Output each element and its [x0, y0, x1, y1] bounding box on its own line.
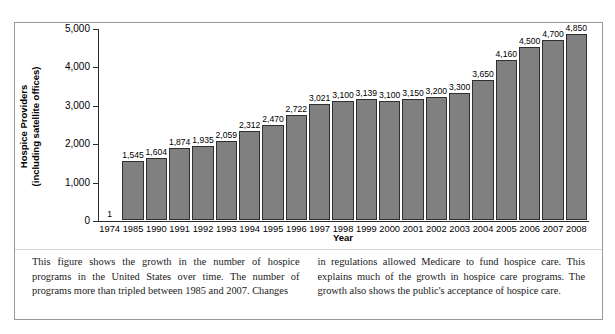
y-axis-title: Hospice Providers (including satellite o… — [18, 39, 41, 214]
bar[interactable] — [192, 146, 213, 220]
bar-group: 3,1502001 — [401, 28, 424, 220]
bar[interactable] — [402, 99, 423, 220]
bar-value-label: 1,935 — [192, 136, 214, 145]
bar-value-label: 2,470 — [262, 115, 284, 124]
bar-group: 3,1002000 — [378, 28, 401, 220]
bar-group: 3,2002002 — [425, 28, 448, 220]
bar-group: 2,4701995 — [261, 28, 284, 220]
figure-caption: This figure shows the growth in the numb… — [15, 255, 602, 299]
bar-group: 3,0211997 — [308, 28, 331, 220]
bar-value-label: 1 — [107, 210, 112, 219]
y-axis-title-line-1: Hospice Providers — [18, 39, 30, 214]
bar-group: 1,6041990 — [145, 28, 168, 220]
bar[interactable] — [332, 101, 353, 220]
bar[interactable] — [426, 97, 447, 220]
x-axis-title: Year — [98, 232, 588, 243]
bar-value-label: 1,874 — [169, 138, 191, 147]
y-axis-tick-label: 0 — [46, 216, 90, 226]
bar-value-label: 3,300 — [449, 83, 471, 92]
bar-group: 3,6502004 — [471, 28, 494, 220]
bar-value-label: 3,021 — [309, 94, 331, 103]
y-axis-tick-label: 2,000 — [46, 139, 90, 149]
bar-value-label: 3,100 — [379, 91, 401, 100]
bar[interactable] — [309, 104, 330, 220]
bar[interactable] — [356, 99, 377, 220]
bar-value-label: 4,700 — [542, 30, 564, 39]
y-axis-tick-label: 5,000 — [46, 24, 90, 34]
bar-group: 1,9351992 — [191, 28, 214, 220]
bar[interactable] — [216, 141, 237, 220]
bar[interactable] — [449, 93, 470, 220]
bar-value-label: 1,604 — [146, 148, 168, 157]
bar-value-label: 2,312 — [239, 121, 261, 130]
bar-chart: Hospice Providers (including satellite o… — [15, 23, 602, 249]
bar-value-label: 4,500 — [519, 37, 541, 46]
bar-value-label: 3,650 — [472, 70, 494, 79]
bar[interactable] — [146, 158, 167, 220]
bar-group: 1,8741991 — [168, 28, 191, 220]
bar[interactable] — [262, 125, 283, 220]
bar-group: 4,7002007 — [541, 28, 564, 220]
x-axis-line — [98, 221, 589, 222]
bar[interactable] — [239, 131, 260, 220]
bar[interactable] — [122, 161, 143, 220]
bar-value-label: 3,100 — [332, 91, 354, 100]
bar-group: 4,1602005 — [495, 28, 518, 220]
bar-group: 2,7221996 — [285, 28, 308, 220]
bar-group: 2,0591993 — [215, 28, 238, 220]
bar[interactable] — [286, 115, 307, 220]
bar-value-label: 3,200 — [426, 87, 448, 96]
plot-area: 119741,54519851,60419901,87419911,935199… — [98, 29, 588, 221]
y-axis-tick-label: 3,000 — [46, 101, 90, 111]
caption-column-right: in regulations allowed Medicare to fund … — [318, 255, 586, 299]
caption-column-left: This figure shows the growth in the numb… — [32, 255, 300, 299]
bar-group: 4,8502008 — [565, 28, 588, 220]
y-axis-tick-label: 1,000 — [46, 178, 90, 188]
bar-group: 2,3121994 — [238, 28, 261, 220]
bar-value-label: 1,545 — [122, 151, 144, 160]
bar-value-label: 2,059 — [216, 131, 238, 140]
bar[interactable] — [542, 40, 563, 220]
bar-value-label: 3,139 — [356, 89, 378, 98]
bar[interactable] — [379, 101, 400, 220]
bar-group: 3,3002003 — [448, 28, 471, 220]
bar-group: 3,1001998 — [331, 28, 354, 220]
bar-group: 11974 — [98, 28, 121, 220]
caption-divider — [15, 249, 602, 250]
bar-value-label: 4,160 — [496, 50, 518, 59]
bar[interactable] — [472, 80, 493, 220]
y-axis-title-line-2: (including satellite offices) — [30, 39, 42, 214]
bar-group: 3,1391999 — [355, 28, 378, 220]
bar-value-label: 3,150 — [402, 89, 424, 98]
bar[interactable] — [169, 148, 190, 220]
bar[interactable] — [519, 47, 540, 220]
bar-value-label: 4,850 — [566, 24, 588, 33]
bar-group: 4,5002006 — [518, 28, 541, 220]
bar-value-label: 2,722 — [286, 105, 308, 114]
figure-frame: Hospice Providers (including satellite o… — [14, 22, 603, 320]
bar[interactable] — [566, 34, 587, 220]
bar-group: 1,5451985 — [121, 28, 144, 220]
y-axis-tick-label: 4,000 — [46, 62, 90, 72]
bar[interactable] — [496, 60, 517, 220]
